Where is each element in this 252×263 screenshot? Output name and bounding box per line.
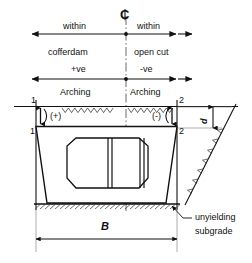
section-mark-top-right: 2 xyxy=(179,96,184,105)
arching-right-label: Arching xyxy=(130,88,161,97)
positive-deflection-label: (+) xyxy=(50,112,61,121)
arching-left-label: Arching xyxy=(60,88,91,97)
subgrade-hatch xyxy=(35,205,180,209)
depth-label: d xyxy=(200,119,209,125)
diagram-canvas: ₵ within within cofferdam open cut +ve -… xyxy=(0,0,252,263)
inner-cell-outline xyxy=(67,138,148,188)
slope-face xyxy=(185,104,236,205)
diagram-vector-layer xyxy=(0,0,252,263)
centerline-symbol: ₵ xyxy=(120,10,129,19)
unyielding-subgrade-line2: subgrade xyxy=(195,227,233,236)
negative-deflection-label: (-) xyxy=(152,112,161,121)
within-arrow xyxy=(32,32,192,36)
within-left-label: within xyxy=(63,22,86,31)
within-right-label: within xyxy=(137,22,160,31)
subgrade-leader xyxy=(172,206,192,218)
width-label: B xyxy=(101,222,109,231)
positive-arching-sign: +ve xyxy=(71,65,86,74)
open-cut-label: open cut xyxy=(134,48,169,57)
section-mark-top-left: 1 xyxy=(31,96,36,105)
arching-arrow xyxy=(32,77,192,81)
unyielding-subgrade-line1: unyielding xyxy=(195,213,236,222)
left-deflection-arrow xyxy=(41,108,47,124)
negative-arching-sign: -ve xyxy=(140,65,153,74)
cofferdam-label: cofferdam xyxy=(48,48,88,57)
section-mark-bottom-right: 2 xyxy=(179,127,184,136)
section-mark-bottom-left: 1 xyxy=(30,127,35,136)
